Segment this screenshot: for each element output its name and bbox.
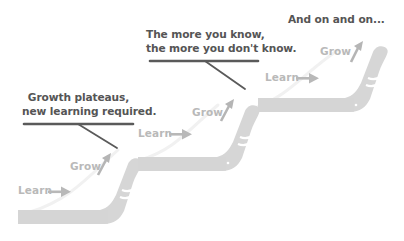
callout-more-you-know: The more you know, the more you don't kn… <box>146 27 262 55</box>
stick-dot-3 <box>355 104 358 107</box>
arrow-up-right-icon <box>351 41 363 62</box>
callout-1-line-2: new learning required. <box>22 104 135 118</box>
grow-label-2: Grow <box>192 106 223 118</box>
learn-label-3: Learn <box>265 71 299 83</box>
callout-pointer-2 <box>205 61 245 89</box>
learn-label-2: Learn <box>138 127 172 139</box>
blade-texture-1 <box>18 210 108 224</box>
blade-texture-3 <box>258 98 354 112</box>
learn-label-1: Learn <box>18 184 52 196</box>
callout-3-line-1: And on and on... <box>288 12 372 26</box>
callout-2-line-2: the more you don't know. <box>146 41 262 55</box>
callout-pointer-1 <box>78 124 117 148</box>
grow-label-1: Grow <box>70 160 101 172</box>
callout-growth-plateaus: Growth plateaus, new learning required. <box>22 90 135 118</box>
stick-dot-2 <box>227 162 230 165</box>
callout-2-line-1: The more you know, <box>146 27 262 41</box>
blade-texture-2 <box>138 157 226 171</box>
learning-growth-diagram: Learn Grow Learn Grow Learn Grow Growth … <box>0 0 404 241</box>
callout-and-on: And on and on... <box>288 12 372 26</box>
grow-label-3: Grow <box>320 45 351 57</box>
callout-1-line-1: Growth plateaus, <box>22 90 135 104</box>
